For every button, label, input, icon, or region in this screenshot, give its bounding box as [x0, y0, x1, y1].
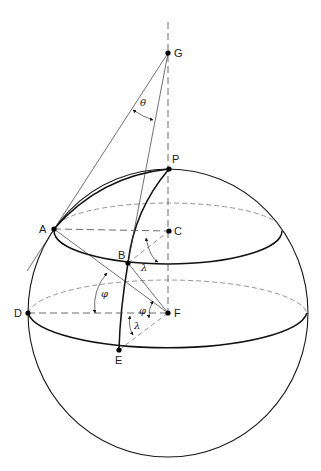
point-B — [125, 260, 130, 265]
label-B: B — [118, 249, 125, 261]
label-P: P — [172, 153, 179, 165]
meridian-A — [54, 169, 169, 229]
point-A — [51, 226, 56, 231]
label-G: G — [174, 47, 183, 59]
line-AF — [54, 229, 168, 313]
equator-back — [28, 280, 307, 313]
label-A: A — [39, 223, 47, 235]
theta-arc — [133, 110, 153, 120]
equator-front — [28, 313, 307, 348]
meridian-PBE — [119, 169, 169, 350]
label-D: D — [14, 307, 22, 319]
point-G — [165, 50, 170, 55]
point-F — [165, 310, 170, 315]
line-AC — [54, 229, 169, 231]
label-theta: θ — [140, 97, 146, 108]
label-lambda-upper: λ — [140, 262, 147, 273]
point-D — [25, 310, 30, 315]
label-phi-left: φ — [101, 288, 108, 299]
point-C — [166, 228, 171, 233]
lambda-lower-arc — [129, 316, 133, 335]
sphere-geometry-diagram: G P A C B D F E θ λ φ φ λ — [0, 0, 321, 471]
label-phi-center: φ — [139, 305, 146, 316]
point-E — [116, 347, 121, 352]
label-lambda-lower: λ — [133, 320, 140, 331]
line-EF — [119, 313, 168, 350]
point-P — [166, 166, 171, 171]
label-C: C — [174, 225, 182, 237]
phi-center-arc — [149, 301, 153, 318]
label-E: E — [115, 354, 122, 366]
tangent-line-GA — [27, 53, 168, 271]
label-F: F — [174, 307, 181, 319]
lambda-upper-arc — [146, 238, 158, 262]
